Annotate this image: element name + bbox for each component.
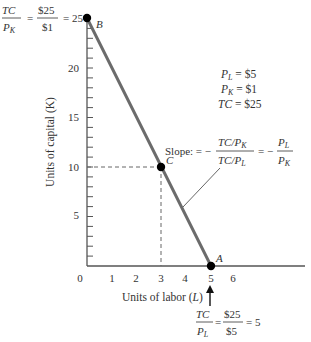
x-tick-1: 1 [109, 272, 115, 284]
k-intercept-formula: TC PK = $25 $1 = 25 [2, 4, 83, 35]
y-axis-title: Units of capital (K) [44, 97, 57, 187]
svg-text:TC: TC [196, 308, 210, 320]
svg-text:TC: TC [2, 4, 16, 16]
parameters: PL = $5 PK = $1 TC = $25 [218, 68, 262, 110]
svg-text:= 25: = 25 [63, 12, 83, 24]
point-b [83, 14, 91, 22]
y-ticks [87, 28, 93, 256]
svg-text:=: = [215, 316, 221, 328]
x-axis-title: Units of labor (L) [122, 291, 203, 304]
y-tick-10: 10 [68, 161, 80, 173]
x-tick-5: 5 [208, 272, 214, 284]
svg-text:PL: PL [277, 136, 290, 150]
svg-text:TC/PK: TC/PK [218, 136, 247, 150]
svg-text:PK: PK [2, 21, 16, 35]
svg-text:$1: $1 [42, 21, 53, 33]
svg-text:Slope: = −: Slope: = − [165, 145, 211, 157]
isocost-chart: 5 10 15 20 0 1 2 3 4 5 6 Units of capita… [0, 0, 311, 342]
y-tick-15: 15 [68, 111, 80, 123]
svg-text:$25: $25 [38, 4, 55, 16]
point-a [207, 262, 215, 270]
x-tick-2: 2 [133, 272, 139, 284]
x-tick-4: 4 [182, 272, 188, 284]
svg-text:$5: $5 [226, 325, 238, 337]
x-tick-3: 3 [158, 272, 164, 284]
svg-text:PL: PL [196, 325, 209, 339]
y-tick-20: 20 [68, 62, 80, 74]
point-a-label: A [215, 252, 223, 264]
svg-text:=: = [27, 12, 33, 24]
svg-text:TC = $25: TC = $25 [218, 98, 262, 110]
svg-text:PK = $1: PK = $1 [220, 83, 257, 97]
isocost-line [87, 18, 211, 266]
svg-text:PL = $5: PL = $5 [220, 68, 256, 82]
x-tick-6: 6 [230, 272, 236, 284]
svg-text:TC/PL: TC/PL [218, 154, 246, 168]
slope-annotation: Slope: = − TC/PK TC/PL = − PL PK [165, 136, 293, 207]
l-intercept-formula: TC PL = $25 $5 = 5 [196, 308, 261, 339]
point-c [157, 163, 165, 171]
svg-text:= 5: = 5 [246, 316, 261, 328]
point-b-label: B [96, 18, 103, 30]
svg-text:= −: = − [258, 145, 273, 157]
svg-text:PK: PK [277, 154, 291, 168]
y-tick-5: 5 [74, 209, 80, 221]
up-arrow-icon [206, 285, 214, 306]
x-tick-0: 0 [77, 272, 83, 284]
slope-pointer-line [183, 168, 220, 207]
svg-text:$25: $25 [224, 308, 241, 320]
